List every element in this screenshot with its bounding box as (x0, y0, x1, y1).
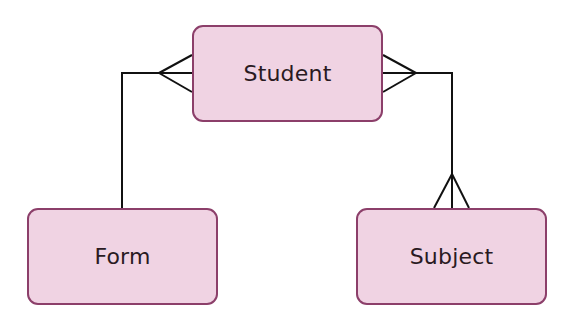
entity-form-label: Form (94, 244, 150, 269)
entity-student: Student (192, 25, 383, 122)
relationship-student-subject-line (383, 73, 452, 208)
entity-student-label: Student (243, 61, 331, 86)
entity-subject-label: Subject (410, 244, 494, 269)
relationship-form-student-line (122, 73, 192, 208)
entity-form: Form (27, 208, 218, 305)
entity-subject: Subject (356, 208, 547, 305)
